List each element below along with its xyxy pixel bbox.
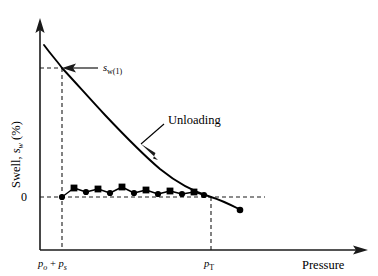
swell-point-marker: [155, 191, 161, 197]
p-t-subscript: T: [209, 263, 214, 272]
unloading-callout-group: Unloading: [141, 113, 222, 144]
swell-point-marker: [167, 188, 174, 195]
swell-point-marker: [107, 190, 113, 196]
x-tick-label-p-t: pT: [203, 258, 214, 272]
swell-point-marker: [201, 192, 207, 198]
swell-point-marker: [131, 190, 137, 196]
axes-group: [35, 18, 368, 255]
swell-callout-label: sw(1): [103, 62, 123, 76]
unloading-callout-leader: [141, 124, 164, 144]
p-initial-subscript-2: s: [64, 263, 67, 272]
y-axis-label-group: Swell, sw (%): [9, 121, 25, 188]
swell-point-marker: [179, 191, 185, 197]
x-axis-label: Pressure: [302, 258, 345, 272]
unloading-label: Unloading: [168, 113, 222, 127]
figure-svg: sw(1) Unloading Swell, sw (%) 0 po + ps …: [0, 0, 378, 276]
swell-point-marker: [191, 189, 198, 196]
y-axis-label-main: Swell,: [9, 156, 23, 188]
y-axis-label: Swell, sw (%): [9, 121, 25, 188]
y-axis-label-units: (%): [9, 121, 23, 140]
swell-callout-group: sw(1): [62, 62, 123, 76]
guide-lines-group: [40, 68, 265, 250]
swell-point-marker: [59, 194, 65, 200]
swell-point-marker: [71, 185, 78, 192]
swell-pressure-figure: sw(1) Unloading Swell, sw (%) 0 po + ps …: [0, 0, 378, 276]
curve-end-marker: [237, 207, 244, 214]
swell-callout-subscript: w(1): [107, 67, 122, 76]
swell-point-marker: [95, 186, 102, 193]
swell-point-marker: [119, 184, 126, 191]
unloading-direction-arrowhead: [141, 144, 158, 160]
zero-tick-label: 0: [21, 190, 27, 204]
swell-point-marker: [83, 189, 89, 195]
swell-point-marker: [143, 187, 150, 194]
x-tick-label-p-initial: po + ps: [37, 258, 67, 272]
